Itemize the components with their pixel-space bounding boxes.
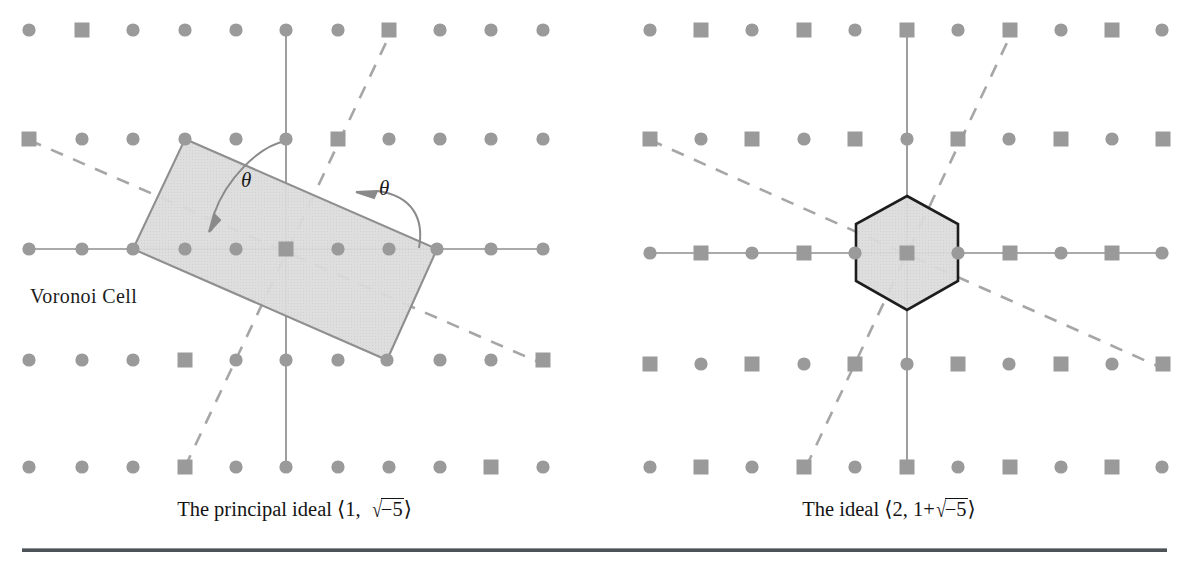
lattice-circle (22, 353, 35, 366)
lattice-circle (951, 23, 964, 36)
lattice-circle (229, 242, 242, 255)
lattice-circle (279, 132, 292, 145)
lattice-row (22, 460, 549, 475)
lattice-square (536, 353, 551, 368)
lattice-circle (279, 23, 292, 36)
lattice-row (643, 23, 1168, 38)
lattice-circle (433, 23, 446, 36)
lattice-circle (22, 23, 35, 36)
lattice-circle (797, 357, 810, 370)
lattice-circle (643, 460, 656, 473)
lattice-square (178, 353, 193, 368)
radical-expression-right: √−5 (935, 498, 968, 521)
lattice-square (900, 460, 915, 475)
caption-right-under-radical: −5 (945, 498, 968, 521)
caption-right-prefix: The ideal (802, 498, 879, 520)
lattice-circle (229, 132, 242, 145)
lattice-square (694, 246, 709, 261)
lattice-circle (484, 132, 497, 145)
lattice-circle (126, 132, 139, 145)
lattice-circle (951, 246, 964, 259)
lattice-square (1003, 460, 1018, 475)
lattice-circle (900, 132, 913, 145)
lattice-square (643, 357, 658, 372)
caption-left-under-radical: −5 (381, 498, 404, 521)
lattice-circle (694, 132, 707, 145)
lattice-circle (694, 357, 707, 370)
lattice-row (22, 353, 550, 368)
lattice-circle (643, 246, 656, 259)
lattice-circle (279, 460, 292, 473)
lattice-square (848, 357, 863, 372)
lattice-circle (331, 242, 344, 255)
horizontal-rule (22, 548, 1167, 552)
lattice-square (694, 460, 709, 475)
radical-sign-icon: √ (372, 497, 382, 523)
lattice-row (643, 132, 1171, 147)
lattice-circle (951, 460, 964, 473)
lattice-circle (382, 242, 395, 255)
lattice-row (22, 132, 550, 147)
caption-left-first-generator: 1, (345, 498, 360, 520)
caption-right-plus-term: 1+ (913, 498, 935, 520)
lattice-square (848, 132, 863, 147)
lattice-circle (1002, 357, 1015, 370)
lattice-circle (75, 132, 88, 145)
lattice-square (643, 132, 658, 147)
lattice-circle (536, 460, 549, 473)
lattice-circle (433, 132, 446, 145)
lattice-square (797, 23, 812, 38)
voronoi-cell-label-left: Voronoi Cell (30, 285, 137, 308)
lattice-circle (229, 460, 242, 473)
lattice-square (951, 357, 966, 372)
caption-left-prefix: The principal ideal (177, 498, 332, 520)
lattice-circle (484, 353, 497, 366)
lattice-square (382, 23, 397, 38)
lattice-circle (643, 23, 656, 36)
caption-left: The principal ideal ⟨1, √−5⟩ (0, 497, 589, 522)
lattice-circle (178, 23, 191, 36)
lattice-diagram-left (0, 0, 589, 540)
lattice-circle (126, 460, 139, 473)
lattice-circle (382, 460, 395, 473)
lattice-square (745, 357, 760, 372)
lattice-circle (433, 460, 446, 473)
lattice-circle (1105, 132, 1118, 145)
lattice-circle (331, 460, 344, 473)
radical-expression-left: √−5 (371, 498, 404, 521)
lattice-circle (1054, 246, 1067, 259)
lattice-circle (178, 132, 191, 145)
lattice-square (178, 460, 193, 475)
lattice-circle (745, 246, 758, 259)
lattice-square (900, 23, 915, 38)
lattice-circle (536, 242, 549, 255)
panel-ideal-two: Voronoi Cell (589, 0, 1189, 540)
lattice-square (1003, 23, 1018, 38)
lattice-square (75, 23, 90, 38)
lattice-circle (178, 242, 191, 255)
angle-label-theta-2: θ (379, 176, 389, 201)
lattice-square (1156, 357, 1171, 372)
lattice-square (1105, 460, 1120, 475)
lattice-circle (75, 460, 88, 473)
lattice-circle (797, 132, 810, 145)
lattice-circle (1155, 246, 1168, 259)
lattice-square (694, 23, 709, 38)
lattice-square (1105, 246, 1120, 261)
lattice-square (1054, 357, 1069, 372)
lattice-square (1105, 23, 1120, 38)
lattice-circle (126, 242, 139, 255)
lattice-circle (484, 242, 497, 255)
lattice-square-origin (279, 242, 294, 257)
lattice-circle (1155, 460, 1168, 473)
lattice-square (1054, 132, 1069, 147)
lattice-circle (331, 353, 344, 366)
lattice-circle (484, 23, 497, 36)
lattice-circle (1054, 23, 1067, 36)
caption-right: The ideal ⟨2, 1+√−5⟩ (589, 497, 1189, 522)
panel-principal-ideal: θ θ Voronoi Cell (0, 0, 589, 540)
lattice-circle (745, 460, 758, 473)
lattice-square (797, 246, 812, 261)
caption-left-close-bracket: ⟩ (404, 497, 412, 521)
lattice-circle (229, 23, 242, 36)
